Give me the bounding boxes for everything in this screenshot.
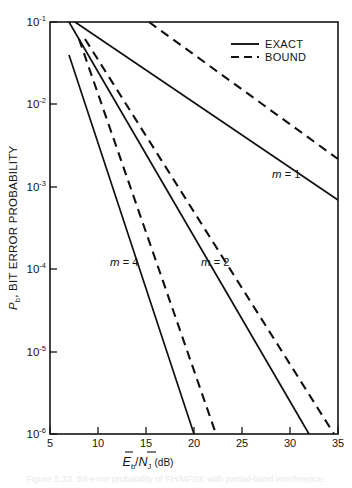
annotation-m2-eq: = 2: [214, 256, 230, 268]
x-axis-title: Eb/NJ (dB): [123, 452, 174, 471]
x-tick-labels: 5 10 15 20 25 30 35: [47, 437, 344, 449]
y-tick-mantissa-2: 10: [27, 181, 40, 193]
y-axis-title-p: P: [7, 302, 19, 310]
svg-text:10-4: 10-4: [27, 261, 46, 275]
y-axis-title: Pb, BIT ERROR PROBABILITY: [7, 146, 22, 310]
annotation-m4: m = 4: [110, 256, 138, 268]
svg-text:10-1: 10-1: [27, 14, 46, 28]
y-tick-mantissa-5: 10: [27, 428, 40, 440]
curve-m4-bound: [79, 39, 216, 434]
x-tick-label-4: 25: [236, 437, 248, 449]
svg-text:Pb, BIT ERROR PROBABILITY: Pb, BIT ERROR PROBABILITY: [7, 146, 22, 310]
y-tick-exponent-2: -3: [39, 179, 46, 188]
y-tick-mantissa-4: 10: [27, 346, 40, 358]
annotation-m2: m = 2: [201, 256, 229, 268]
svg-text:10-5: 10-5: [27, 344, 46, 358]
annotation-m1-m: m: [272, 168, 282, 180]
y-tick-mantissa-0: 10: [27, 16, 40, 28]
svg-text:10-6: 10-6: [27, 426, 46, 440]
legend: EXACT BOUND: [231, 38, 306, 63]
x-tick-label-2: 15: [140, 437, 152, 449]
y-tick-exponent-3: -4: [39, 261, 46, 270]
y-tick-exponent-5: -6: [39, 426, 46, 435]
x-tick-label-3: 20: [188, 437, 200, 449]
chart-canvas: 10-1 10-2 10-3 10-4 10-5 10-6 5 10 15 20: [0, 0, 352, 488]
x-tick-label-5: 30: [284, 437, 296, 449]
legend-label-bound: BOUND: [265, 51, 306, 63]
series-group: [69, 22, 338, 434]
svg-text:10-3: 10-3: [27, 179, 46, 193]
annotation-m1: m = 1: [272, 168, 300, 180]
x-tick-label-0: 5: [47, 437, 53, 449]
y-tick-exponent-4: -5: [39, 344, 46, 353]
legend-label-exact: EXACT: [265, 38, 303, 50]
annotation-m2-m: m: [201, 256, 211, 268]
y-axis-title-rest: , BIT ERROR PROBABILITY: [7, 146, 19, 298]
svg-text:10-2: 10-2: [27, 96, 46, 110]
svg-text:Eb/NJ (dB): Eb/NJ (dB): [123, 455, 174, 471]
curve-m2-bound: [85, 39, 334, 434]
y-tick-exponent-1: -2: [39, 96, 46, 105]
y-tick-labels: 10-1 10-2 10-3 10-4 10-5 10-6: [27, 14, 46, 440]
x-tick-label-1: 10: [92, 437, 104, 449]
curve-annotations: m = 1 m = 2 m = 4: [110, 168, 300, 268]
y-tick-mantissa-1: 10: [27, 98, 40, 110]
annotation-m1-eq: = 1: [285, 168, 301, 180]
annotation-m4-eq: = 4: [123, 256, 139, 268]
y-axis-ticks: [50, 22, 57, 434]
figure-container: 10-1 10-2 10-3 10-4 10-5 10-6 5 10 15 20: [0, 0, 352, 488]
annotation-m4-m: m: [110, 256, 120, 268]
curve-m4-exact: [69, 55, 194, 434]
figure-caption: Figure 5.33. Bit-error probability of FH…: [0, 474, 352, 484]
y-tick-exponent-0: -1: [39, 14, 46, 23]
y-tick-mantissa-3: 10: [27, 263, 40, 275]
x-tick-label-6: 35: [332, 437, 344, 449]
x-axis-title-units: (dB): [155, 457, 174, 468]
curve-m2-exact: [69, 22, 309, 434]
